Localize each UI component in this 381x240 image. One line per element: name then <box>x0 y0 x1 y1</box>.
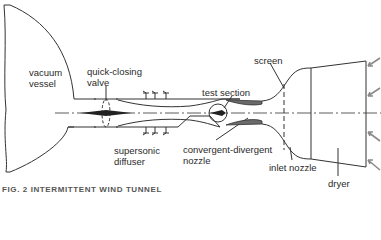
label-dryer: dryer <box>328 178 350 189</box>
label-nozzle-line1: convergent-divergent <box>183 144 272 155</box>
label-inlet-nozzle: inlet nozzle <box>269 162 317 173</box>
label-screen: screen <box>254 55 283 66</box>
label-vacuum-vessel: vacuum vessel <box>29 67 62 89</box>
label-vessel-line2: vessel <box>29 78 62 89</box>
label-convergent-divergent-nozzle: convergent-divergent nozzle <box>183 144 272 166</box>
label-valve-line1: quick-closing <box>87 66 142 77</box>
model-sting <box>80 110 132 116</box>
leader-screen <box>270 63 284 88</box>
nozzle-block-upper <box>226 100 262 105</box>
inlet-nozzle-lower <box>262 124 366 167</box>
label-diffuser-line1: supersonic <box>114 145 160 156</box>
flow-arrows <box>368 58 380 170</box>
inlet-nozzle-upper <box>262 61 366 101</box>
label-diffuser-line2: diffuser <box>114 156 160 167</box>
label-test-section: test section <box>202 87 250 98</box>
label-nozzle-line2: nozzle <box>183 155 272 166</box>
leader-inlet-nozzle <box>290 147 292 160</box>
label-vacuum-line1: vacuum <box>29 67 62 78</box>
label-supersonic-diffuser: supersonic diffuser <box>114 145 160 167</box>
figure-caption: FIG. 2 INTERMITTENT WIND TUNNEL <box>2 185 162 192</box>
nozzle-block-lower <box>226 120 262 125</box>
label-valve-line2: valve <box>87 77 142 88</box>
test-model <box>210 110 226 116</box>
label-quick-closing-valve: quick-closing valve <box>87 66 142 88</box>
